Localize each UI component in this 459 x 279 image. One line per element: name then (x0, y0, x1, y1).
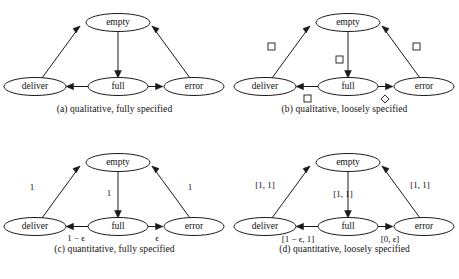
arrowhead-empty-to-full (345, 71, 352, 79)
node-error-label: error (415, 221, 434, 231)
node-error-label: error (185, 81, 204, 91)
node-deliver-label: deliver (22, 81, 49, 91)
edge-error-to-empty (152, 26, 190, 78)
edge-deliver-to-empty (42, 26, 80, 78)
panel-a-graph: empty deliver full error (0, 0, 229, 112)
node-full-label: full (111, 81, 125, 91)
edge-label-full-to-error: ϵ (155, 233, 159, 243)
arrowhead-error-to-empty (152, 26, 159, 33)
arrowhead-full-to-error (156, 83, 164, 89)
edge-label-error-to-empty: [1, 1] (410, 180, 430, 190)
arrowhead-full-to-deliver (66, 83, 74, 89)
marker-square-empty-to-full (336, 56, 343, 63)
node-full-label: full (341, 81, 355, 91)
arrowhead-empty-to-full (115, 71, 122, 79)
panel-c: empty deliver full error 1 1 1 1 − ϵ ϵ (… (0, 140, 229, 279)
panel-d-graph: empty deliver full error [1, 1] [1, 1] [… (230, 140, 459, 252)
panel-d: empty deliver full error [1, 1] [1, 1] [… (230, 140, 459, 279)
panel-b-caption: (b) qualitative, loosely specified (230, 104, 459, 114)
edge-label-empty-to-full: 1 (107, 188, 112, 198)
node-error-label: error (185, 221, 204, 231)
edge-label-full-to-error: [0, ϵ] (381, 234, 400, 244)
arrowhead-deliver-to-empty (73, 166, 80, 173)
arrowhead-error-to-empty (382, 26, 389, 33)
node-empty-label: empty (106, 17, 130, 27)
panel-a: empty deliver full error (a) qualitative… (0, 0, 229, 139)
edge-label-empty-to-full: [1, 1] (333, 189, 353, 199)
arrowhead-full-to-error (386, 223, 394, 229)
edge-label-full-to-deliver: 1 − ϵ (67, 233, 85, 243)
edge-label-deliver-to-empty: [1, 1] (255, 180, 275, 190)
arrowhead-empty-to-full (115, 211, 122, 219)
arrowhead-deliver-to-empty (303, 26, 310, 33)
edge-error-to-empty (152, 166, 190, 218)
panel-b: empty deliver full error (b) qua (230, 0, 459, 139)
arrowhead-empty-to-full (345, 211, 352, 219)
panel-d-caption: (d) quantitative, loosely specified (230, 244, 459, 254)
node-empty-label: empty (336, 157, 360, 167)
panel-b-graph: empty deliver full error (230, 0, 459, 112)
arrowhead-error-to-empty (382, 166, 389, 173)
panel-c-graph: empty deliver full error 1 1 1 1 − ϵ ϵ (0, 140, 229, 252)
node-full-label: full (111, 221, 125, 231)
node-deliver-label: deliver (252, 81, 279, 91)
figure-four-panel-transition-systems: empty deliver full error (a) qualitative… (0, 0, 459, 279)
edge-deliver-to-empty (272, 166, 310, 218)
node-deliver-label: deliver (252, 221, 279, 231)
arrowhead-full-to-error (156, 223, 164, 229)
marker-diamond-full-to-error (381, 95, 389, 103)
edge-deliver-to-empty (272, 26, 310, 78)
arrowhead-error-to-empty (152, 166, 159, 173)
edge-deliver-to-empty (42, 166, 80, 218)
marker-square-deliver-to-empty (268, 43, 275, 50)
node-full-label: full (341, 221, 355, 231)
node-deliver-label: deliver (22, 221, 49, 231)
panel-c-caption: (c) quantitative, fully specified (0, 244, 229, 254)
marker-square-error-to-empty (413, 43, 420, 50)
edge-error-to-empty (382, 166, 420, 218)
node-empty-label: empty (336, 17, 360, 27)
edge-error-to-empty (382, 26, 420, 78)
node-error-label: error (415, 81, 434, 91)
arrowhead-full-to-deliver (296, 83, 304, 89)
arrowhead-full-to-deliver (296, 223, 304, 229)
arrowhead-full-to-deliver (66, 223, 74, 229)
panel-a-caption: (a) qualitative, fully specified (0, 104, 229, 114)
arrowhead-deliver-to-empty (73, 26, 80, 33)
marker-square-full-to-deliver (304, 95, 311, 102)
node-empty-label: empty (106, 157, 130, 167)
edge-label-full-to-deliver: [1 − ϵ, 1] (282, 234, 315, 244)
arrowhead-deliver-to-empty (303, 166, 310, 173)
arrowhead-full-to-error (386, 83, 394, 89)
edge-label-error-to-empty: 1 (188, 182, 193, 192)
edge-label-deliver-to-empty: 1 (30, 182, 35, 192)
